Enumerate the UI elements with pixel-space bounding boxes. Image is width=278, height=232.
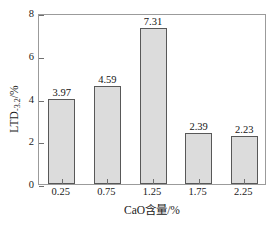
- y-axis-tick-label: 4: [18, 95, 34, 105]
- y-axis-tick-label: 0: [18, 180, 34, 190]
- bar-value-label: 3.97: [53, 87, 71, 98]
- y-axis-tick: [39, 58, 44, 59]
- bar: 7.31: [140, 28, 167, 184]
- y-axis-tick: [39, 15, 44, 16]
- bar: 2.23: [231, 136, 258, 184]
- x-axis-tick-label: 0.25: [52, 186, 70, 198]
- plot-inner: 3.974.597.312.392.23: [39, 15, 265, 184]
- bar-value-label: 4.59: [98, 74, 116, 85]
- x-axis-tick: [199, 179, 200, 184]
- x-axis-tick: [62, 179, 63, 184]
- bar-value-label: 2.39: [189, 121, 207, 132]
- bar: 3.97: [48, 99, 75, 184]
- y-axis-tick: [39, 143, 44, 144]
- bar-chart-figure: LTD-3.2/% 02468 3.974.597.312.392.23 0.2…: [0, 0, 278, 232]
- plot-area: 3.974.597.312.392.23: [38, 14, 266, 185]
- y-axis-tick-label: 8: [18, 9, 34, 19]
- x-axis-tick-label: 0.75: [97, 186, 115, 198]
- x-axis-tick-labels: 0.250.751.251.752.25: [38, 186, 266, 200]
- bar-value-label: 7.31: [144, 16, 162, 27]
- x-axis-tick: [244, 179, 245, 184]
- y-axis-tick: [39, 101, 44, 102]
- x-axis-tick-label: 2.25: [234, 186, 252, 198]
- bar-value-label: 2.23: [235, 124, 253, 135]
- y-axis-tick-label: 2: [18, 137, 34, 147]
- y-axis-tick-label: 6: [18, 52, 34, 62]
- x-axis-tick-label: 1.75: [188, 186, 206, 198]
- bar: 4.59: [94, 86, 121, 184]
- x-axis-label: CaO含量/%: [38, 203, 266, 217]
- bar: 2.39: [185, 133, 212, 184]
- y-axis-tick-labels: 02468: [18, 0, 34, 232]
- x-axis-tick: [107, 179, 108, 184]
- x-axis-tick: [153, 179, 154, 184]
- x-axis-tick-label: 1.25: [143, 186, 161, 198]
